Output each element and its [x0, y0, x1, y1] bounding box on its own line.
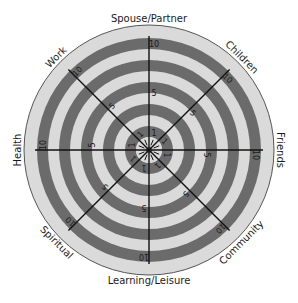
- tick-1-label: 1: [162, 152, 171, 157]
- segment-label-spouse-partner: Spouse/Partner: [111, 13, 188, 24]
- segment-label-health: Health: [12, 134, 23, 167]
- tick-1-label: 1: [128, 142, 137, 147]
- tick-1-label: 1: [151, 129, 156, 138]
- spokes: [35, 36, 263, 264]
- tick-10-label: 10: [251, 150, 260, 160]
- segment-label-friends: Friends: [275, 132, 286, 168]
- tick-5-label: 5: [141, 203, 146, 212]
- tick-10-label: 10: [39, 140, 48, 150]
- segment-label-learning-leisure: Learning/Leisure: [108, 275, 191, 286]
- tick-5-label: 5: [151, 89, 156, 98]
- life-wheel-diagram: 10511051105110511051105110511051 Spouse/…: [0, 0, 298, 303]
- tick-1-label: 1: [141, 163, 146, 172]
- tick-10-label: 10: [149, 40, 159, 49]
- tick-10-label: 10: [139, 252, 149, 261]
- tick-5-label: 5: [88, 142, 97, 147]
- tick-5-label: 5: [202, 152, 211, 157]
